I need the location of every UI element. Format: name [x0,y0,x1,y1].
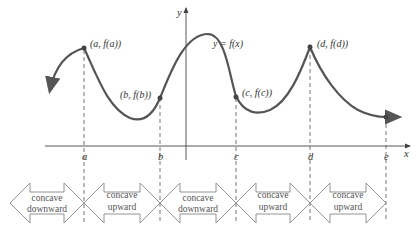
concavity-diagram: y x y = f(x) (a, f(a)) (b, f(b)) (c, f(c… [0,0,417,234]
interval-3-line1: concave [182,193,213,203]
interval-arrow-1 [10,183,84,223]
point-e [384,115,389,120]
y-axis-label: y [176,7,182,18]
point-b [158,96,163,101]
tick-label-b: b [158,151,163,162]
x-axis-label: x [403,148,409,159]
interval-2-line1: concave [106,190,137,200]
interval-3-line2: downward [178,204,218,214]
interval-arrow-3 [160,183,236,223]
interval-arrows [10,183,386,223]
tick-label-d: d [308,151,314,162]
interval-2-line2: upward [108,202,137,212]
point-d [308,45,313,50]
interval-4-line1: concave [257,190,288,200]
interval-1-line2: downward [27,204,67,214]
tick-label-e: e [384,151,389,162]
point-label-c: (c, f(c)) [242,87,273,99]
curve-points [82,45,389,120]
point-c [234,95,239,100]
point-label-b: (b, f(b)) [120,89,152,101]
interval-4-line2: upward [259,202,288,212]
point-label-a: (a, f(a)) [90,38,122,50]
tick-label-c: c [234,151,239,162]
interval-5-line1: concave [332,190,363,200]
point-label-d: (d, f(d)) [317,38,349,50]
interval-5-line2: upward [334,202,363,212]
point-a [82,46,87,51]
function-label: y = f(x) [212,38,244,50]
interval-1-line1: concave [31,193,62,203]
tick-label-a: a [82,151,87,162]
